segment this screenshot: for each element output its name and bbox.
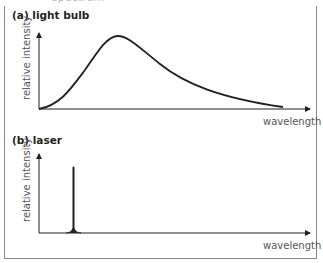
panel-a-xlabel: wavelength	[263, 116, 321, 127]
panel-a-ylabel: relative intensity	[21, 16, 32, 100]
panel-a-axes	[39, 33, 310, 109]
panel-b-axes	[39, 154, 310, 233]
light-bulb-curve	[39, 36, 283, 109]
panel-b-xlabel: wavelength	[263, 240, 321, 251]
diagram-svg: relative intensity wavelength relative i…	[0, 0, 323, 263]
panel-b-ylabel: relative intensity	[21, 138, 32, 222]
laser-peak	[66, 167, 81, 233]
